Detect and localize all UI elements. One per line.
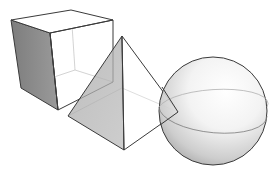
shapes-illustration: Three 3D primitive shapes: cube, square … bbox=[0, 0, 280, 180]
sphere bbox=[159, 57, 268, 165]
pyramid bbox=[68, 36, 178, 150]
